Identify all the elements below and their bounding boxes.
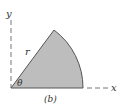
y-axis-label: y <box>5 8 12 19</box>
angle-label: θ <box>17 78 23 88</box>
radius-label: r <box>25 46 31 57</box>
sector-diagram: y x r θ (b) <box>0 0 126 106</box>
x-axis-label: x <box>111 82 117 93</box>
figure-caption: (b) <box>44 94 57 104</box>
